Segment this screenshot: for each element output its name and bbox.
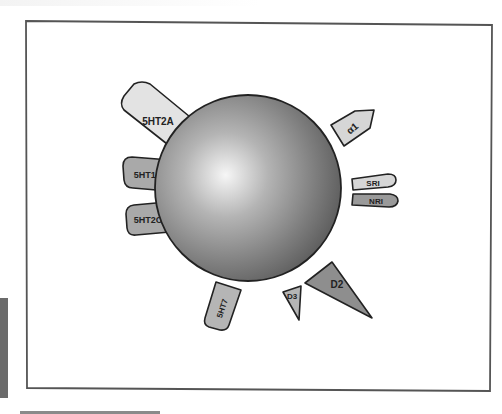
- receptor-label-nri: NRI: [369, 197, 383, 206]
- receptor-label-d3: D3: [287, 292, 298, 301]
- receptor-nri: NRI: [352, 194, 398, 207]
- receptor-label-d2: D2: [331, 279, 344, 290]
- diagram-canvas: 5HT2A 5HT1D 5HT2C α1 SRI NRI 5HT7 D3 D2: [0, 0, 502, 414]
- receptor-label-5ht2a: 5HT2A: [142, 116, 174, 127]
- receptor-label-5ht2c: 5HT2C: [134, 215, 163, 225]
- receptor-label-sri: SRI: [366, 179, 379, 188]
- drug-sphere: [155, 95, 341, 281]
